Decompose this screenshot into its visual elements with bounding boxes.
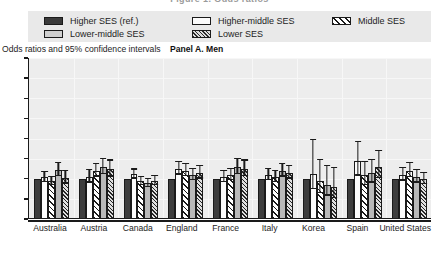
bar-hmiddle[interactable] [220, 177, 227, 219]
bar-middle[interactable] [406, 171, 413, 219]
bar-slot [406, 58, 413, 219]
confidence-interval-whisker [416, 169, 417, 183]
confidence-interval-whisker [109, 159, 110, 176]
bar-set [342, 58, 387, 219]
bar-slot [220, 58, 227, 219]
legend-item-higher-ses[interactable]: Higher SES (ref.) [44, 16, 192, 26]
x-tick-label: Canada [116, 223, 160, 239]
ci-cap-bottom [286, 177, 293, 178]
bar-lmiddle[interactable] [189, 175, 196, 219]
confidence-interval-whisker [192, 168, 193, 181]
bar-hmiddle[interactable] [41, 177, 48, 219]
ci-cap-top [182, 163, 189, 164]
bar-hmiddle[interactable] [265, 175, 272, 219]
bar-lmiddle[interactable] [144, 183, 151, 219]
legend-item-higher-middle-ses[interactable]: Higher-middle SES [192, 16, 332, 26]
bar-lower[interactable] [420, 179, 427, 219]
ci-cap-bottom [234, 173, 241, 174]
ci-cap-top [399, 167, 406, 168]
ci-cap-top [375, 150, 382, 151]
chart-subtitle-row: Odds ratios and 95% confidence intervals… [2, 44, 439, 56]
legend-item-middle-ses[interactable]: Middle SES [332, 16, 427, 26]
confidence-interval-whisker [289, 165, 290, 179]
ci-cap-bottom [272, 181, 279, 182]
ci-cap-top [55, 162, 62, 163]
ci-cap-top [196, 165, 203, 166]
ci-cap-bottom [55, 175, 62, 176]
ci-cap-bottom [362, 184, 369, 185]
bar-higher[interactable] [168, 179, 175, 219]
legend-label-middle-ses: Middle SES [358, 16, 405, 26]
bar-groups [29, 58, 432, 219]
x-tick-label: Australia [28, 223, 72, 239]
bar-higher[interactable] [347, 179, 354, 219]
ci-cap-top [145, 178, 152, 179]
confidence-interval-whisker [140, 176, 141, 186]
bar-slot [303, 58, 310, 219]
ci-cap-bottom [86, 181, 93, 182]
x-tick-label: Italy [248, 223, 292, 239]
bar-slot [137, 58, 144, 219]
bar-higher[interactable] [124, 179, 131, 219]
bar-group [298, 58, 343, 219]
bar-middle[interactable] [137, 181, 144, 219]
bar-lower[interactable] [196, 173, 203, 219]
dense-hatch-square-icon [192, 30, 211, 38]
ci-cap-top [317, 159, 324, 160]
bar-lower[interactable] [62, 178, 69, 219]
ci-cap-top [406, 162, 413, 163]
bar-higher[interactable] [79, 179, 86, 219]
bar-middle[interactable] [48, 181, 55, 219]
panel-title: Panel A. Men [170, 44, 223, 54]
confidence-interval-whisker [223, 170, 224, 182]
ci-cap-top [227, 168, 234, 169]
ci-cap-bottom [131, 177, 138, 178]
bar-set [253, 58, 298, 219]
bar-hmiddle[interactable] [175, 169, 182, 219]
bar-slot [107, 58, 114, 219]
bar-lmiddle[interactable] [100, 167, 107, 219]
bar-middle[interactable] [182, 171, 189, 219]
y-tick-mark [24, 118, 28, 119]
bar-higher[interactable] [392, 179, 399, 219]
bar-lmiddle[interactable] [279, 171, 286, 219]
confidence-interval-whisker [275, 170, 276, 182]
bar-middle[interactable] [93, 171, 100, 219]
bar-middle[interactable] [272, 177, 279, 219]
bar-higher[interactable] [34, 179, 41, 219]
bar-higher[interactable] [303, 179, 310, 219]
ci-cap-top [310, 139, 317, 140]
bar-slot [317, 58, 324, 219]
ci-cap-bottom [182, 175, 189, 176]
bar-hmiddle[interactable] [86, 177, 93, 219]
bar-hmiddle[interactable] [131, 174, 138, 219]
bar-middle[interactable] [227, 175, 234, 219]
bar-lower[interactable] [151, 181, 158, 219]
bar-higher[interactable] [213, 179, 220, 219]
x-tick-label: Austria [72, 223, 116, 239]
ci-cap-bottom [176, 173, 183, 174]
ci-cap-bottom [355, 174, 362, 175]
confidence-interval-whisker [65, 170, 66, 184]
bar-slot [392, 58, 399, 219]
y-tick-mark [24, 98, 28, 99]
bar-lmiddle[interactable] [413, 177, 420, 219]
ci-cap-bottom [220, 181, 227, 182]
ci-cap-bottom [107, 175, 114, 176]
bar-set [208, 58, 253, 219]
bar-lmiddle[interactable] [55, 170, 62, 219]
x-tick-label: Spain [335, 223, 379, 239]
legend-item-lower-middle-ses[interactable]: Lower-middle SES [44, 29, 192, 39]
legend-item-lower-ses[interactable]: Lower SES [192, 29, 332, 39]
confidence-interval-whisker [237, 158, 238, 174]
ci-cap-top [355, 141, 362, 142]
bar-lower[interactable] [286, 173, 293, 219]
chart-legend: Higher SES (ref.) Higher-middle SES Midd… [28, 11, 431, 42]
confidence-interval-whisker [357, 141, 358, 176]
bar-lmiddle[interactable] [234, 167, 241, 219]
bar-group [163, 58, 208, 219]
ci-cap-bottom [41, 181, 48, 182]
bar-slot [375, 58, 382, 219]
bar-higher[interactable] [258, 179, 265, 219]
bar-hmiddle[interactable] [399, 175, 406, 219]
